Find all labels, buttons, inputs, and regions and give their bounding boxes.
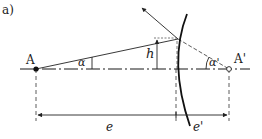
object-distance-label: e — [106, 120, 113, 134]
refraction-diagram: a) h α α' A A' e e' — [0, 0, 262, 139]
image-distance-label: e' — [193, 120, 203, 134]
object-point-label: A — [25, 53, 35, 67]
alpha-label: α — [78, 56, 86, 69]
refracting-surface — [178, 14, 190, 126]
panel-label: a) — [2, 3, 14, 17]
alpha-prime-label: α' — [209, 56, 219, 69]
refracted-ray — [142, 8, 178, 39]
ray-extension-to-image — [178, 39, 229, 69]
object-point — [33, 66, 38, 71]
image-point-label: A' — [233, 52, 246, 66]
height-label: h — [146, 46, 154, 61]
image-point — [227, 67, 232, 72]
